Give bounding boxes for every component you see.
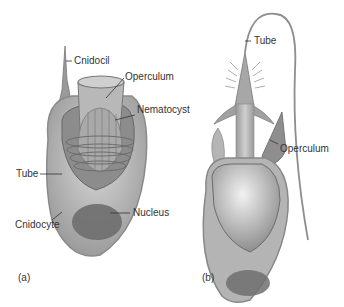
label-cnidocyte: Cnidocyte: [15, 219, 59, 231]
cnidocyte-discharged: [203, 14, 308, 303]
label-operculum-b: Operculum: [280, 143, 329, 155]
nucleus-shape: [72, 204, 122, 240]
label-tube-b: Tube: [254, 35, 276, 47]
panel-caption-b: (b): [202, 272, 214, 283]
panel-caption-a: (a): [18, 272, 30, 283]
label-cnidocil: Cnidocil: [74, 55, 110, 67]
label-nucleus: Nucleus: [133, 207, 169, 219]
label-tube-a: Tube: [16, 168, 38, 180]
label-nematocyst: Nematocyst: [137, 104, 190, 116]
label-operculum-a: Operculum: [125, 71, 174, 83]
